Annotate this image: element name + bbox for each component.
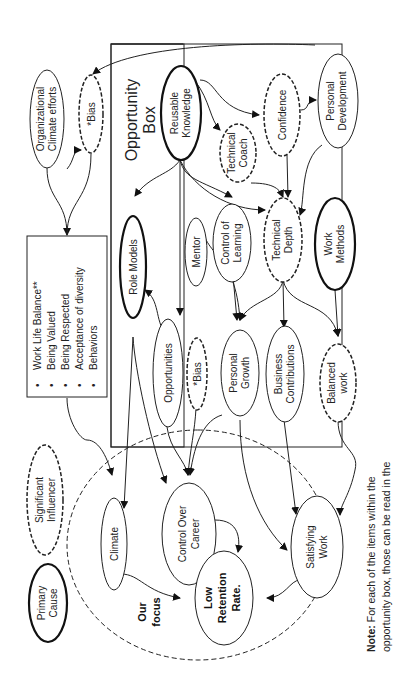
svg-text:Development: Development — [337, 71, 348, 130]
retention-diagram: Organizational Climate efforts *Bias Opp… — [0, 0, 394, 696]
node-low-retention-rate: Low Retention Rate. — [195, 551, 253, 645]
node-business-contributions: Business Contributions — [266, 326, 304, 422]
svg-text:opportunity box, those can be: opportunity box, those can be read in th… — [380, 462, 392, 652]
svg-text:*Bias: *Bias — [192, 362, 203, 385]
svg-text:•: • — [88, 383, 99, 387]
svg-text:Organizational: Organizational — [35, 87, 46, 151]
node-satisfying-work: Satisfying Work — [291, 496, 343, 598]
svg-text:Personal: Personal — [325, 81, 336, 120]
svg-text:Control Over: Control Over — [177, 505, 188, 562]
svg-text:Work Life Balance**: Work Life Balance** — [32, 281, 43, 370]
svg-text:Work: Work — [323, 231, 334, 255]
legend-primary-cause: Primary Cause — [29, 564, 67, 642]
svg-text:Growth: Growth — [240, 357, 251, 389]
svg-text:Note: For each of the items wi: Note: For each of the items within the — [365, 476, 377, 652]
svg-text:Confidence: Confidence — [277, 89, 288, 140]
climate-factors-list: • Work Life Balance** • Being Valued • B… — [32, 267, 99, 387]
svg-text:Technical: Technical — [271, 219, 282, 261]
svg-text:*Bias: *Bias — [86, 102, 97, 125]
svg-text:Low: Low — [202, 587, 214, 609]
svg-text:Methods: Methods — [335, 225, 346, 263]
svg-text:Satisfying: Satisfying — [305, 525, 316, 568]
node-bias-top: *Bias — [79, 75, 103, 153]
svg-text:Behaviors: Behaviors — [88, 326, 99, 370]
svg-text:Work: Work — [318, 534, 329, 558]
node-control-of-learning: Control of Learning — [213, 204, 251, 282]
svg-text:•: • — [46, 383, 57, 387]
node-technical-coach: Technical Coach — [220, 124, 256, 182]
node-mentor: Mentor — [185, 218, 207, 286]
node-personal-development: Personal Development — [318, 54, 358, 148]
node-confidence: Confidence — [264, 74, 300, 156]
svg-text:Mentor: Mentor — [191, 236, 202, 268]
svg-text:Depth: Depth — [283, 227, 294, 254]
svg-text:Climate efforts: Climate efforts — [47, 87, 58, 151]
svg-text:Climate: Climate — [109, 527, 120, 561]
node-opportunities: Opportunities — [153, 319, 183, 427]
svg-text:Opportunities: Opportunities — [163, 343, 174, 402]
svg-text:•: • — [74, 383, 85, 387]
svg-text:Box: Box — [141, 106, 158, 134]
svg-text:Being Respected: Being Respected — [60, 294, 71, 370]
svg-text:•: • — [60, 383, 71, 387]
svg-text:Control of: Control of — [220, 221, 231, 265]
opportunity-box-title: Opportunity Box — [123, 79, 158, 162]
node-role-models: Role Models — [120, 216, 146, 318]
node-technical-depth: Technical Depth — [264, 198, 302, 282]
svg-text:Business: Business — [273, 354, 284, 395]
svg-text:work: work — [338, 371, 349, 394]
svg-text:Significant: Significant — [34, 477, 45, 523]
svg-text:Learning: Learning — [232, 224, 243, 263]
svg-text:Cause: Cause — [48, 588, 59, 617]
svg-text:Role Models: Role Models — [128, 239, 139, 295]
svg-text:Retention: Retention — [216, 572, 228, 623]
node-personal-growth: Personal Growth — [221, 330, 259, 416]
svg-text:Influencer: Influencer — [46, 477, 57, 522]
svg-text:Being Valued: Being Valued — [46, 311, 57, 370]
svg-text:Reusable: Reusable — [169, 91, 180, 134]
footnote: Note: For each of the items within the o… — [365, 462, 392, 652]
svg-text:Primary: Primary — [36, 586, 47, 620]
node-org-climate: Organizational Climate efforts — [30, 70, 64, 168]
node-climate: Climate — [101, 498, 127, 590]
svg-text:Knowledge: Knowledge — [181, 88, 192, 138]
svg-text:Contributions: Contributions — [285, 345, 296, 404]
focus-label: Our focus — [136, 597, 162, 626]
node-bias-mid: *Bias — [187, 338, 207, 410]
svg-text:Personal: Personal — [228, 353, 239, 392]
svg-text:•: • — [32, 383, 43, 387]
svg-text:Acceptance of diversity: Acceptance of diversity — [74, 267, 85, 370]
node-reusable-knowledge: Reusable Knowledge — [161, 66, 201, 160]
node-balanced-work: Balanced work — [320, 344, 356, 422]
svg-text:Opportunity: Opportunity — [123, 79, 140, 162]
svg-text:Balanced: Balanced — [326, 362, 337, 404]
svg-text:focus: focus — [150, 597, 162, 626]
svg-text:Our: Our — [136, 602, 148, 622]
svg-text:Career: Career — [190, 518, 201, 549]
legend-significant-influencer: Significant Influencer — [27, 445, 63, 555]
node-work-methods: Work Methods — [315, 198, 355, 290]
svg-text:Rate.: Rate. — [230, 585, 242, 612]
svg-text:Technical: Technical — [226, 132, 237, 174]
svg-text:Coach: Coach — [238, 139, 249, 168]
